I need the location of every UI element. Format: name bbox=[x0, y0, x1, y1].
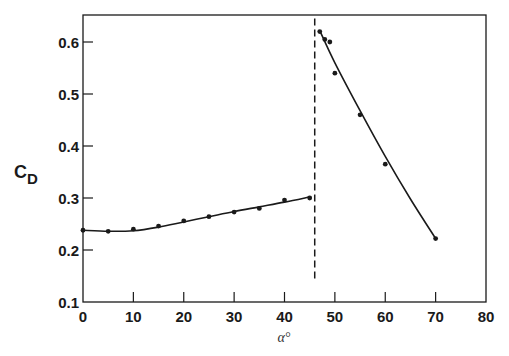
y-tick-label: 0.2 bbox=[58, 242, 79, 259]
y-axis-ticks bbox=[83, 42, 93, 250]
y-axis-label: CD bbox=[14, 162, 38, 187]
fit-curve bbox=[83, 197, 310, 231]
data-point bbox=[232, 210, 237, 215]
data-point bbox=[282, 198, 287, 203]
data-point bbox=[332, 71, 337, 76]
data-point bbox=[106, 229, 111, 234]
x-axis-tick-labels: 01020304050607080 bbox=[79, 308, 495, 325]
x-tick-label: 40 bbox=[276, 308, 293, 325]
data-point bbox=[383, 162, 388, 167]
x-tick-label: 60 bbox=[377, 308, 394, 325]
data-point bbox=[433, 236, 438, 241]
fit-curve bbox=[320, 31, 436, 239]
data-point bbox=[131, 227, 136, 232]
data-point bbox=[358, 112, 363, 117]
y-tick-label: 0.6 bbox=[58, 34, 79, 51]
x-tick-label: 0 bbox=[79, 308, 87, 325]
y-tick-label: 0.5 bbox=[58, 86, 79, 103]
x-tick-label: 20 bbox=[175, 308, 192, 325]
data-point bbox=[181, 218, 186, 223]
data-point bbox=[327, 40, 332, 45]
x-tick-label: 70 bbox=[427, 308, 444, 325]
y-axis-label-main: C bbox=[14, 162, 27, 182]
y-tick-label: 0.4 bbox=[58, 138, 80, 155]
x-tick-label: 10 bbox=[125, 308, 142, 325]
plot-frame bbox=[83, 15, 486, 302]
x-tick-label: 80 bbox=[478, 308, 495, 325]
x-tick-label: 30 bbox=[226, 308, 243, 325]
x-axis-label: α° bbox=[278, 330, 291, 345]
x-axis-ticks bbox=[133, 292, 435, 302]
drag-coefficient-chart: 0.10.20.30.40.50.6 01020304050607080 CD … bbox=[0, 0, 509, 356]
data-point bbox=[307, 196, 312, 201]
y-tick-label: 0.3 bbox=[58, 190, 79, 207]
data-point bbox=[317, 29, 322, 34]
data-point bbox=[322, 37, 327, 42]
x-tick-label: 50 bbox=[327, 308, 344, 325]
y-axis-label-subscript: D bbox=[27, 170, 38, 187]
data-point bbox=[207, 214, 212, 219]
data-points bbox=[81, 29, 438, 241]
y-axis-tick-labels: 0.10.20.30.40.50.6 bbox=[58, 34, 80, 311]
y-tick-label: 0.1 bbox=[58, 294, 79, 311]
data-point bbox=[81, 228, 86, 233]
data-point bbox=[257, 206, 262, 211]
data-point bbox=[156, 224, 161, 229]
